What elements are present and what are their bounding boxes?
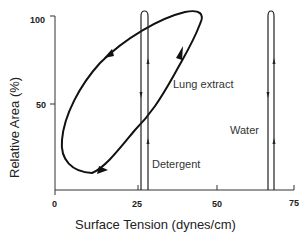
y-tick-label-50: 50 bbox=[36, 100, 46, 110]
series-detergent bbox=[141, 11, 148, 190]
water-arrow-up-icon bbox=[273, 58, 276, 64]
detergent-loop bbox=[141, 11, 148, 190]
series-water bbox=[268, 11, 274, 190]
x-axis-label: Surface Tension (dynes/cm) bbox=[75, 217, 236, 232]
water-arrow-up-lower-icon bbox=[273, 138, 276, 144]
y-axis-label: Relative Area (%) bbox=[7, 77, 22, 178]
water-arrow-down-icon bbox=[267, 92, 270, 98]
lung-extract-loop bbox=[62, 11, 202, 173]
label-detergent: Detergent bbox=[152, 158, 200, 170]
label-lung-extract: Lung extract bbox=[173, 78, 234, 90]
label-water: Water bbox=[230, 124, 259, 136]
detergent-arrow-up-icon bbox=[147, 58, 150, 64]
surface-tension-chart: 100 50 0 25 50 75 Surface Tension (dynes… bbox=[0, 0, 306, 241]
lung-arrow-up-right-icon bbox=[176, 46, 183, 60]
series-lung-extract bbox=[62, 11, 202, 173]
water-loop bbox=[268, 11, 274, 190]
x-tick-label-50: 50 bbox=[212, 199, 222, 209]
y-tick-label-100: 100 bbox=[30, 15, 45, 25]
detergent-arrow-up-lower-icon bbox=[147, 138, 150, 144]
detergent-arrow-down-icon bbox=[140, 92, 143, 98]
x-tick-label-75: 75 bbox=[289, 198, 299, 208]
x-tick-label-0: 0 bbox=[52, 199, 57, 209]
x-tick-label-25: 25 bbox=[132, 199, 142, 209]
